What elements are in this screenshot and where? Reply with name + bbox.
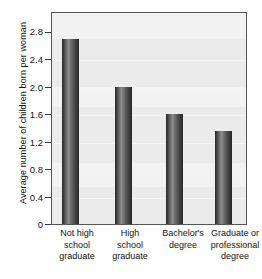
y-tick-label-0-4: 0.4 bbox=[12, 193, 43, 203]
plot-inner bbox=[52, 13, 246, 224]
x-label-line: High bbox=[101, 228, 159, 240]
x-label-line: degree bbox=[203, 251, 262, 263]
y-tick-label-0: 0 bbox=[12, 220, 43, 230]
gridline-1-6 bbox=[52, 115, 246, 116]
bar-graduate-or-professional-degree[interactable] bbox=[215, 131, 232, 224]
gridline-2-4 bbox=[52, 60, 246, 61]
x-label-line: school bbox=[101, 240, 159, 252]
y-axis-tick-labels: 2.8 2.4 2.0 1.6 1.2 0.8 0.4 0 bbox=[12, 0, 43, 279]
x-label-graduate-or-professional-degree: Graduate orprofessionaldegree bbox=[203, 228, 262, 263]
background-band bbox=[52, 87, 246, 107]
gridline-2-8 bbox=[52, 33, 246, 34]
x-label-line: school bbox=[47, 240, 107, 252]
x-label-not-high-school-graduate: Not highschoolgraduate bbox=[47, 228, 107, 263]
x-label-line: graduate bbox=[47, 251, 107, 263]
y-tick-label-1-6: 1.6 bbox=[12, 110, 43, 120]
x-axis-category-labels: Not highschoolgraduate Highschoolgraduat… bbox=[51, 228, 247, 276]
y-tick-label-2-4: 2.4 bbox=[12, 55, 43, 65]
background-band bbox=[52, 13, 246, 39]
x-label-high-school-graduate: Highschoolgraduate bbox=[101, 228, 159, 263]
x-label-line: graduate bbox=[101, 251, 159, 263]
bar-chart-figure: Average number of children born per woma… bbox=[0, 0, 262, 279]
x-label-line: Not high bbox=[47, 228, 107, 240]
plot-area bbox=[51, 12, 247, 225]
x-label-line: Graduate or bbox=[203, 228, 262, 240]
x-label-line: professional bbox=[203, 240, 262, 252]
gridline-2-0 bbox=[52, 88, 246, 89]
bar-not-high-school-graduate[interactable] bbox=[62, 39, 79, 224]
y-tick-label-2-0: 2.0 bbox=[12, 83, 43, 93]
y-tick-label-1-2: 1.2 bbox=[12, 138, 43, 148]
bar-high-school-graduate[interactable] bbox=[115, 87, 132, 224]
y-tick-label-0-8: 0.8 bbox=[12, 165, 43, 175]
y-tick-label-2-8: 2.8 bbox=[12, 27, 43, 37]
bar-bachelors-degree[interactable] bbox=[166, 114, 183, 224]
